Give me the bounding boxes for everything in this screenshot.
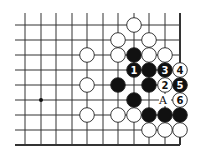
white-stone bbox=[142, 48, 157, 63]
white-stone bbox=[142, 123, 157, 138]
white-stone bbox=[127, 18, 142, 33]
move-number: 6 bbox=[177, 95, 184, 106]
black-stone bbox=[127, 93, 142, 108]
point-label-a: A bbox=[158, 94, 168, 107]
black-stone bbox=[142, 63, 157, 78]
white-stone bbox=[80, 108, 95, 123]
white-stone bbox=[158, 123, 173, 138]
white-stone bbox=[80, 78, 95, 93]
go-board: A 134256 bbox=[0, 0, 201, 155]
white-stone-4: 4 bbox=[173, 63, 188, 78]
move-number: 3 bbox=[162, 65, 169, 76]
move-number: 1 bbox=[131, 65, 138, 76]
white-stone bbox=[142, 33, 157, 48]
black-stone-5: 5 bbox=[173, 78, 188, 93]
black-stone bbox=[111, 78, 126, 93]
move-number: 5 bbox=[177, 80, 184, 91]
white-stone bbox=[158, 48, 173, 63]
black-stone bbox=[142, 108, 157, 123]
black-stone-1: 1 bbox=[127, 63, 142, 78]
move-number: 4 bbox=[177, 65, 184, 76]
board-grid bbox=[15, 13, 180, 145]
star-point-icon bbox=[39, 98, 43, 102]
black-stone-3: 3 bbox=[158, 63, 173, 78]
white-stone bbox=[80, 48, 95, 63]
white-stone bbox=[173, 123, 188, 138]
white-stone-6: 6 bbox=[173, 93, 188, 108]
white-stone bbox=[127, 108, 142, 123]
black-stone bbox=[158, 108, 173, 123]
white-stone bbox=[111, 108, 126, 123]
black-stone bbox=[142, 78, 157, 93]
move-number: 2 bbox=[162, 80, 169, 91]
white-stone bbox=[111, 33, 126, 48]
board-marks: A bbox=[158, 94, 171, 107]
white-stone bbox=[111, 48, 126, 63]
star-points bbox=[39, 98, 43, 102]
white-stone-2: 2 bbox=[158, 78, 173, 93]
black-stone bbox=[173, 108, 188, 123]
black-stone bbox=[127, 48, 142, 63]
